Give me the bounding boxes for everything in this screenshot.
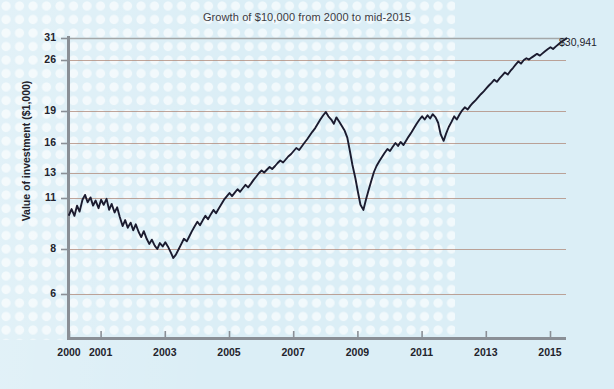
x-axis-tick-label: 2011 xyxy=(400,346,444,358)
y-axis-tick-label: 8 xyxy=(22,242,56,254)
data-line-series xyxy=(69,38,567,258)
x-axis-tick-label: 2007 xyxy=(271,346,315,358)
x-axis-tick-label: 2001 xyxy=(79,346,123,358)
x-axis-tick-label: 2015 xyxy=(528,346,572,358)
gridlines xyxy=(69,39,567,295)
x-axis-tick-label: 2003 xyxy=(143,346,187,358)
end-value-annotation: $30,941 xyxy=(559,36,597,48)
y-axis-tick-label: 6 xyxy=(22,287,56,299)
chart-container: Growth of $10,000 from 2000 to mid-2015 … xyxy=(0,0,614,389)
y-axis-tick-label: 31 xyxy=(22,31,56,43)
x-axis-tick-label: 2013 xyxy=(464,346,508,358)
y-axis-tick-label: 16 xyxy=(22,136,56,148)
y-axis-tick-label: 13 xyxy=(22,166,56,178)
x-axis-tick-label: 2005 xyxy=(207,346,251,358)
plot-svg xyxy=(0,0,614,389)
y-axis-tick-label: 11 xyxy=(22,191,56,203)
y-axis-tick-label: 19 xyxy=(22,104,56,116)
x-axis-tick-label: 2009 xyxy=(335,346,379,358)
y-axis-tick-label: 26 xyxy=(22,53,56,65)
